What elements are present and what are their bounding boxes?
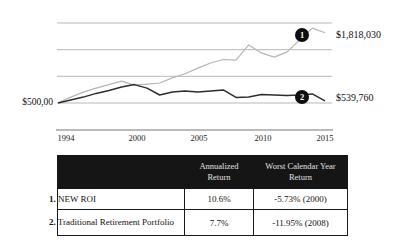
returns-comparison-table: Annualized Return Worst Calendar Year Re… (57, 155, 348, 236)
growth-line-chart: $500,00 1 2 $1,818,030 $539,760 1994 200… (0, 0, 400, 150)
series-2-marker-number: 2 (300, 93, 304, 102)
row-name: NEW ROI (58, 194, 96, 204)
series-2-marker-badge: 2 (295, 90, 309, 104)
traditional-worst-year: -11.95% (2008) (254, 210, 348, 236)
new-roi-worst-year: -5.73% (2000) (254, 189, 348, 210)
x-tick-2010: 2010 (255, 133, 272, 143)
header-worst-calendar-year-return: Worst Calendar Year Return (254, 156, 348, 189)
x-tick-2000: 2000 (129, 133, 146, 143)
row-number: 2. (49, 217, 56, 227)
x-tick-2005: 2005 (191, 133, 208, 143)
row-number: 1. (49, 194, 56, 204)
roi-comparison-infographic: $500,00 1 2 $1,818,030 $539,760 1994 200… (0, 0, 400, 241)
new-roi-annualized-return: 10.6% (185, 189, 254, 210)
x-tick-2015: 2015 (317, 133, 334, 143)
series-1-marker-badge: 1 (295, 28, 309, 42)
series-1-end-value-label: $1,818,030 (336, 29, 381, 40)
header-blank-cell (58, 156, 185, 189)
series-2-end-value-label: $539,760 (336, 92, 374, 103)
traditional-annualized-return: 7.7% (185, 210, 254, 236)
table-header-row: Annualized Return Worst Calendar Year Re… (58, 156, 348, 189)
row-label-traditional-portfolio: 2. Traditional Retirement Portfolio (58, 210, 185, 236)
chart-canvas (0, 0, 400, 150)
table-row-new-roi: 1. NEW ROI 10.6% -5.73% (2000) (58, 189, 348, 210)
header-annualized-return: Annualized Return (185, 156, 254, 189)
row-label-new-roi: 1. NEW ROI (58, 189, 185, 210)
series-1-marker-number: 1 (300, 31, 304, 40)
table-row-traditional-portfolio: 2. Traditional Retirement Portfolio 7.7%… (58, 210, 348, 236)
x-tick-1994: 1994 (58, 133, 75, 143)
row-name: Traditional Retirement Portfolio (58, 217, 174, 227)
chart-start-value-label: $500,00 (0, 97, 53, 107)
